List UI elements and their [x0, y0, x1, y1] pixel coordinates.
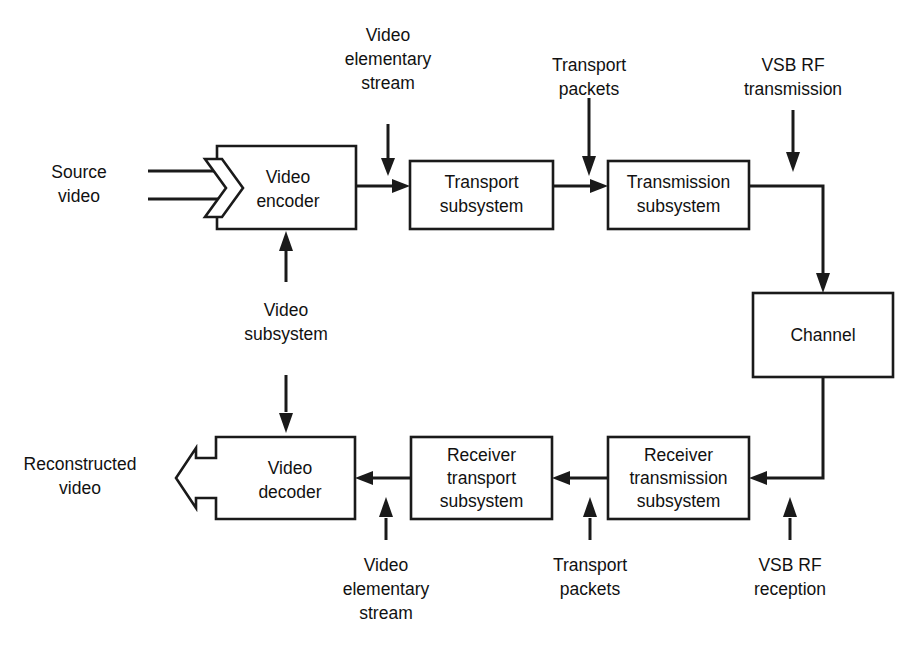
ves-top-line1: Video — [366, 25, 410, 45]
tp-bottom-line2: packets — [560, 579, 621, 599]
diagram-canvas: Video encoder Transport subsystem Transm… — [0, 0, 920, 647]
video-decoder-label-line2: decoder — [258, 482, 321, 502]
source-video-line2: video — [58, 186, 100, 206]
receiver-transport-subsystem-label-line1: Receiver — [447, 445, 516, 465]
video-decoder-shape — [176, 437, 355, 519]
label-source-video: Source video — [51, 162, 106, 206]
label-vsb-rf-transmission: VSB RF transmission — [744, 55, 842, 99]
source-video-line1: Source — [51, 162, 106, 182]
box-receiver-transport-subsystem[interactable]: Receiver transport subsystem — [411, 437, 552, 519]
channel-to-receiver-transmission-arrowhead — [749, 471, 767, 485]
vsbrf-rx-arrowhead — [783, 497, 797, 517]
receiver-transmission-subsystem-label-line2: transmission — [629, 468, 727, 488]
label-transport-packets-top: Transport packets — [552, 55, 626, 99]
label-layer: Source video Video elementary stream Tra… — [24, 25, 843, 623]
transmission-to-channel-arrowhead — [816, 273, 830, 293]
transport-subsystem-label-line1: Transport — [444, 172, 518, 192]
transport-to-transmission-arrowhead — [590, 179, 608, 193]
ves-bottom-line1: Video — [364, 555, 408, 575]
video-subsystem-down-arrowhead — [279, 413, 293, 433]
label-video-subsystem: Video subsystem — [244, 300, 328, 344]
ves-top-arrowhead — [381, 158, 395, 176]
video-decoder-label-line1: Video — [268, 458, 312, 478]
ves-bottom-arrowhead — [379, 497, 393, 517]
channel-to-receiver-transmission-path — [763, 377, 823, 478]
transmission-subsystem-label-line2: subsystem — [637, 196, 721, 216]
receiver-transport-subsystem-label-line3: subsystem — [440, 491, 524, 511]
video-subsystem-line2: subsystem — [244, 324, 328, 344]
tp-bottom-arrowhead — [583, 497, 597, 517]
video-encoder-label-line2: encoder — [256, 191, 319, 211]
receiver-transmission-subsystem-label-line1: Receiver — [644, 445, 713, 465]
ves-bottom-line2: elementary — [343, 579, 430, 599]
tp-top-arrowhead — [582, 156, 596, 176]
label-reconstructed-video: Reconstructed video — [24, 454, 137, 498]
vsbrf-tx-arrowhead — [786, 152, 800, 172]
ves-top-line3: stream — [361, 73, 414, 93]
channel-label: Channel — [790, 325, 855, 345]
vsbrf-rx-line1: VSB RF — [758, 555, 821, 575]
video-encoder-label-line1: Video — [266, 167, 310, 187]
rx-transmission-to-rx-transport-arrowhead — [552, 471, 570, 485]
transmission-to-channel-path — [749, 186, 823, 278]
vsbrf-tx-line2: transmission — [744, 79, 842, 99]
receiver-transmission-subsystem-label-line3: subsystem — [637, 491, 721, 511]
reconstructed-video-line1: Reconstructed — [24, 454, 137, 474]
vsbrf-rx-line2: reception — [754, 579, 826, 599]
label-transport-packets-bottom: Transport packets — [553, 555, 627, 599]
box-transport-subsystem[interactable]: Transport subsystem — [410, 161, 553, 229]
label-vsb-rf-reception: VSB RF reception — [754, 555, 826, 599]
tp-top-line2: packets — [559, 79, 620, 99]
tp-bottom-line1: Transport — [553, 555, 627, 575]
encoder-to-transport-arrowhead — [392, 179, 410, 193]
block-diagram: Video encoder Transport subsystem Transm… — [0, 0, 920, 647]
tp-top-line1: Transport — [552, 55, 626, 75]
transport-subsystem-label-line2: subsystem — [440, 196, 524, 216]
label-video-elementary-stream-bottom: Video elementary stream — [343, 555, 430, 623]
box-video-decoder[interactable]: Video decoder — [176, 437, 355, 519]
box-transmission-subsystem[interactable]: Transmission subsystem — [608, 161, 749, 229]
rx-transport-to-decoder-arrowhead — [355, 471, 373, 485]
label-video-elementary-stream-top: Video elementary stream — [345, 25, 432, 93]
video-subsystem-up-arrowhead — [279, 231, 293, 251]
receiver-transport-subsystem-label-line2: transport — [447, 468, 516, 488]
video-subsystem-line1: Video — [264, 300, 308, 320]
transmission-subsystem-label-line1: Transmission — [627, 172, 730, 192]
box-channel[interactable]: Channel — [753, 293, 893, 377]
ves-bottom-line3: stream — [359, 603, 412, 623]
ves-top-line2: elementary — [345, 49, 432, 69]
box-receiver-transmission-subsystem[interactable]: Receiver transmission subsystem — [608, 437, 749, 519]
vsbrf-tx-line1: VSB RF — [761, 55, 824, 75]
reconstructed-video-line2: video — [59, 478, 101, 498]
